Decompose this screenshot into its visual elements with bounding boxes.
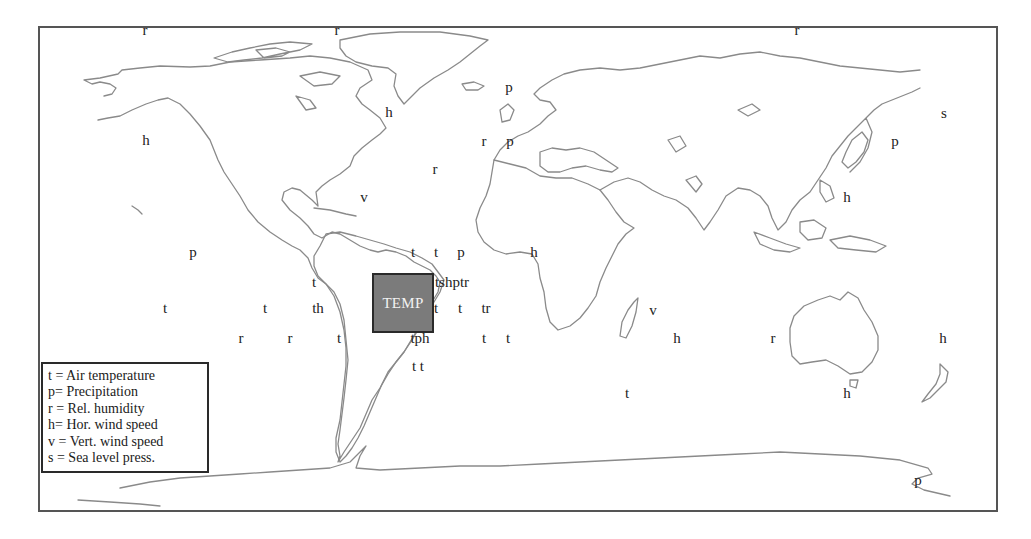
station-variable-label: t (263, 301, 267, 316)
station-variable-label: t (163, 301, 167, 316)
station-variable-label: r (771, 331, 776, 346)
station-variable-label: t (625, 386, 629, 401)
coast-japan (842, 132, 868, 168)
station-variable-label: h (530, 245, 538, 260)
station-variable-label: h (843, 190, 851, 205)
station-variable-label: r (482, 134, 487, 149)
station-variable-label: r (335, 23, 340, 38)
coast-indonesia (754, 180, 886, 252)
station-variable-label: t (337, 331, 341, 346)
station-variable-label: tr (481, 301, 490, 316)
station-variable-label: p (189, 245, 197, 260)
coast-hawaii (132, 206, 142, 214)
legend: t = Air temperature p= Precipitation r =… (41, 362, 209, 473)
temp-box-label: TEMP (382, 295, 423, 312)
station-variable-label: p (457, 245, 465, 260)
coast-arctic-islands (214, 42, 340, 110)
coast-south-america (314, 232, 444, 462)
station-variable-label: r (433, 162, 438, 177)
station-variable-label: t (434, 245, 438, 260)
station-variable-label: t t (412, 359, 424, 374)
station-variable-label: p (891, 134, 899, 149)
station-variable-label: v (360, 190, 368, 205)
coast-africa (476, 160, 634, 330)
station-variable-label: p (505, 80, 513, 95)
coast-asia (600, 88, 920, 230)
station-variable-label: p (914, 473, 922, 488)
legend-item-rel-humidity: r = Rel. humidity (48, 401, 202, 417)
legend-item-sea-level-press: s = Sea level press. (48, 450, 202, 466)
station-variable-label: s (941, 106, 947, 121)
coast-australia (790, 292, 878, 388)
station-variable-label: r (288, 331, 293, 346)
station-variable-label: t (411, 245, 415, 260)
legend-item-air-temperature: t = Air temperature (48, 368, 202, 384)
station-variable-label: t (506, 331, 510, 346)
coast-new-zealand (922, 364, 948, 402)
station-variable-label: r (795, 23, 800, 38)
legend-item-vert-wind-speed: v = Vert. wind speed (48, 434, 202, 450)
coast-iceland (462, 82, 484, 90)
coast-madagascar (620, 298, 638, 338)
station-variable-label: r (239, 331, 244, 346)
station-variable-label: h (142, 133, 150, 148)
coast-europe (494, 52, 920, 172)
legend-item-hor-wind-speed: h= Hor. wind speed (48, 417, 202, 433)
station-variable-label: t (434, 301, 438, 316)
station-variable-label: t (312, 275, 316, 290)
station-variable-label: tshptr (435, 275, 469, 290)
station-variable-label: h (673, 331, 681, 346)
station-variable-label: th (312, 301, 324, 316)
station-variable-label: t (482, 331, 486, 346)
coast-caribbean (314, 208, 356, 216)
legend-item-precipitation: p= Precipitation (48, 384, 202, 400)
station-variable-label: h (843, 386, 851, 401)
station-variable-label: v (649, 303, 657, 318)
station-variable-label: p (506, 134, 514, 149)
station-variable-label: r (143, 23, 148, 38)
station-variable-label: t (458, 301, 462, 316)
station-variable-label: h (385, 105, 393, 120)
temp-region-box: TEMP (372, 273, 434, 333)
station-variable-label: h (939, 331, 947, 346)
